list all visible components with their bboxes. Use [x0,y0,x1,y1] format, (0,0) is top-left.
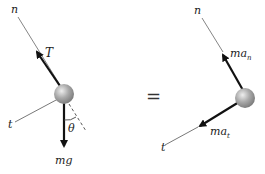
ball [235,88,255,108]
angle-arc [64,117,76,120]
n-axis-line [202,18,223,52]
t-axis-line [15,99,58,122]
n-axis-label: n [11,3,18,16]
tension-label: T [45,46,54,60]
equals-sign: = [146,85,161,106]
kinetic-diagram: n t man mat [161,4,255,154]
t-axis-label: t [8,118,13,131]
n-axis-label: n [194,4,201,17]
ball [54,84,74,104]
free-body-diagram: n t T θ mg [8,3,86,167]
normal-accel-arrow [223,55,244,92]
t-axis-label: t [161,141,166,154]
angle-label: θ [68,122,75,135]
weight-label: mg [55,154,72,167]
tangential-accel-label: mat [210,125,230,140]
t-axis-line [165,127,198,145]
diagram-canvas: n t T θ mg = n t man mat [0,0,265,174]
normal-accel-label: man [230,47,252,62]
tangential-accel-arrow [200,102,239,126]
